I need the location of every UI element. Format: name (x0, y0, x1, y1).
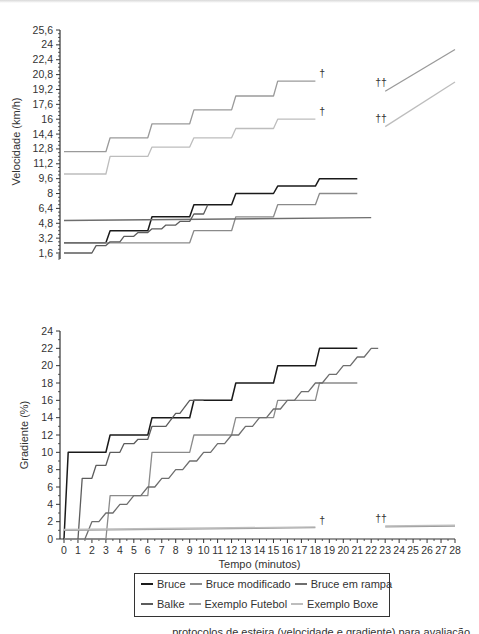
legend-swatch-bruce-em-rampa (295, 583, 307, 585)
x-tick-label: 8 (173, 544, 179, 556)
series-line-bruce-em-rampa (64, 218, 371, 221)
y-tick-label: 4 (47, 498, 53, 510)
y-tick-label: 16 (41, 113, 53, 125)
x-tick-label: 21 (351, 544, 363, 556)
y-axis-title: Velocidade (km/h) (10, 97, 22, 185)
series-line-bruce (64, 179, 357, 243)
series-line-exemplo-boxe (64, 119, 315, 174)
legend-swatch-exemplo-boxe (291, 603, 303, 605)
double-dagger-marker: †† (375, 512, 387, 524)
legend-swatch-bruce (141, 583, 153, 585)
y-tick-label: 22 (41, 342, 53, 354)
y-axis-title: Gradiente (%) (18, 401, 30, 469)
y-tick-label: 14,4 (33, 128, 54, 140)
y-tick-label: 14 (41, 411, 53, 423)
dagger-marker: † (319, 105, 325, 117)
y-tick-label: 24 (41, 325, 53, 337)
double-dagger-marker: †† (375, 112, 387, 124)
x-tick-label: 0 (61, 544, 67, 556)
legend-item-bruce: Bruce (141, 578, 186, 590)
x-tick-label: 18 (310, 544, 322, 556)
x-tick-label: 20 (337, 544, 349, 556)
series-line-balke (78, 400, 204, 539)
x-tick-label: 17 (296, 544, 308, 556)
figure-caption: ... protocolos de esteira (velocidade e … (160, 622, 479, 634)
x-axis-title: Tempo (minutos) (219, 558, 301, 570)
series-continuation-exemplo-futebol (385, 50, 455, 92)
legend-label: Bruce modificado (206, 578, 291, 590)
legend-label: Balke (157, 598, 185, 610)
legend-row-1: Bruce Bruce modificado Bruce em rampa (135, 574, 389, 594)
legend-label: Bruce (157, 578, 186, 590)
series-continuation-exemplo-boxe (385, 525, 455, 526)
legend-swatch-exemplo-futebol (189, 603, 201, 605)
series-continuation-exemplo-boxe (385, 82, 455, 127)
x-tick-label: 1 (75, 544, 81, 556)
x-tick-label: 26 (421, 544, 433, 556)
y-tick-label: 8 (47, 187, 53, 199)
dagger-marker: † (319, 514, 325, 526)
y-tick-label: 8 (47, 463, 53, 475)
x-tick-label: 11 (212, 544, 223, 556)
series-line-balke (64, 205, 208, 253)
legend-label: Bruce em rampa (311, 578, 392, 590)
series-line-bruce-modificado (64, 383, 357, 539)
gradient-chart: 024681012141618202224Gradiente (%)012345… (18, 325, 461, 571)
y-tick-label: 12 (41, 429, 53, 441)
x-tick-label: 4 (117, 544, 123, 556)
legend-swatch-bruce-modificado (190, 583, 202, 585)
y-tick-label: 6 (47, 481, 53, 493)
x-tick-label: 7 (159, 544, 165, 556)
series-line-exemplo-futebol (64, 81, 315, 152)
y-tick-label: 0 (47, 533, 53, 545)
y-tick-label: 10 (41, 446, 53, 458)
y-tick-label: 1,6 (38, 247, 53, 259)
x-tick-label: 10 (198, 544, 210, 556)
x-tick-label: 19 (323, 544, 335, 556)
x-tick-label: 3 (103, 544, 109, 556)
y-tick-label: 12,8 (33, 142, 54, 154)
y-tick-label: 4,8 (38, 217, 53, 229)
dagger-marker: † (319, 67, 325, 79)
y-tick-label: 25,6 (33, 24, 54, 36)
y-tick-label: 16 (41, 394, 53, 406)
legend-item-bruce-em-rampa: Bruce em rampa (295, 578, 392, 590)
y-tick-label: 19,2 (33, 83, 54, 95)
y-tick-label: 3,2 (38, 232, 53, 244)
legend-label: Exemplo Boxe (307, 598, 378, 610)
legend-item-exemplo-boxe: Exemplo Boxe (291, 598, 378, 610)
legend-item-bruce-modificado: Bruce modificado (190, 578, 291, 590)
y-tick-label: 20 (41, 359, 53, 371)
x-tick-label: 5 (131, 544, 137, 556)
x-tick-label: 9 (187, 544, 193, 556)
x-tick-label: 24 (393, 544, 405, 556)
y-tick-label: 2 (47, 515, 53, 527)
legend-row-2: Balke Exemplo Futebol Exemplo Boxe (135, 594, 389, 614)
x-tick-label: 13 (240, 544, 252, 556)
y-tick-label: 9,6 (38, 172, 53, 184)
double-dagger-marker: †† (375, 76, 387, 88)
x-tick-label: 2 (89, 544, 95, 556)
legend-label: Exemplo Futebol (205, 598, 288, 610)
series-line-bruce (64, 348, 357, 539)
x-tick-label: 14 (254, 544, 266, 556)
legend-item-balke: Balke (141, 598, 185, 610)
y-tick-label: 20,8 (33, 68, 54, 80)
x-tick-label: 15 (268, 544, 280, 556)
x-tick-label: 27 (435, 544, 447, 556)
y-tick-label: 17,6 (33, 98, 54, 110)
velocity-chart: 1,63,24,86,489,611,212,814,41617,619,220… (10, 24, 455, 260)
x-tick-label: 25 (407, 544, 419, 556)
x-tick-label: 22 (365, 544, 377, 556)
chart-legend: Bruce Bruce modificado Bruce em rampa Ba… (134, 573, 390, 617)
x-tick-label: 28 (449, 544, 461, 556)
y-tick-label: 11,2 (33, 157, 53, 169)
legend-item-exemplo-futebol: Exemplo Futebol (189, 598, 288, 610)
x-tick-label: 12 (226, 544, 238, 556)
y-tick-label: 24 (41, 38, 53, 50)
y-tick-label: 6,4 (38, 202, 53, 214)
y-tick-label: 22,4 (33, 53, 54, 65)
legend-swatch-balke (141, 603, 153, 605)
x-tick-label: 23 (379, 544, 391, 556)
